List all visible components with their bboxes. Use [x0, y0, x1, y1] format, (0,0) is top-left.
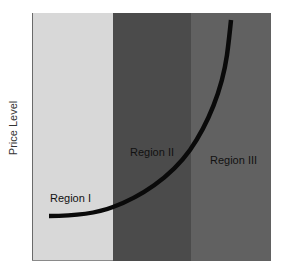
region-2-label: Region II	[130, 146, 174, 158]
region-3-label: Region III	[210, 154, 257, 166]
y-axis-label: Price Level	[7, 101, 19, 155]
region-1-label: Region I	[50, 192, 91, 204]
supply-curve	[0, 0, 281, 273]
